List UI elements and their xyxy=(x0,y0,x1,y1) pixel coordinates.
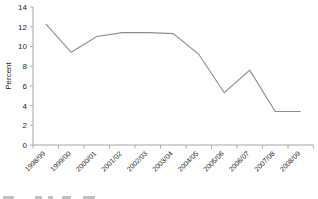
chart-container: 02468101214 1998/991999/002000/012001/02… xyxy=(0,0,318,199)
x-axis-tick-label: 2003/04 xyxy=(151,150,174,173)
footnote-ink-segment xyxy=(35,196,42,199)
y-axis-tick-label: 10 xyxy=(18,42,27,51)
x-axis-tick-label: 2004/05 xyxy=(177,150,200,173)
x-axis-tick-label: 2007/08 xyxy=(253,150,276,173)
line-chart: 02468101214 1998/991999/002000/012001/02… xyxy=(0,0,318,199)
footnote-ink-segment xyxy=(83,196,95,199)
y-axis-tick-label: 0 xyxy=(23,141,28,150)
y-axis-title: Percent xyxy=(4,61,13,89)
footnote-ink-segment xyxy=(3,196,14,199)
clipped-footnote xyxy=(0,196,318,199)
x-axis-tick-label: 1999/00 xyxy=(49,150,72,173)
series-line-percent xyxy=(46,24,301,112)
y-axis-tick-label: 8 xyxy=(23,62,28,71)
footnote-ink-segment xyxy=(62,196,71,199)
y-axis-tick-label: 6 xyxy=(23,82,28,91)
x-axis-tick-label: 1998/99 xyxy=(24,150,47,173)
x-axis-tick-label: 2005/06 xyxy=(202,150,225,173)
y-axis-tick-label: 4 xyxy=(23,102,28,111)
x-axis-tick-label: 2006/07 xyxy=(228,150,251,173)
y-axis: 02468101214 xyxy=(18,3,33,150)
y-axis-tick-label: 12 xyxy=(18,23,27,32)
x-axis-tick-label: 2000/01 xyxy=(75,150,98,173)
y-axis-tick-label: 14 xyxy=(18,3,27,12)
series-group xyxy=(46,24,301,112)
x-axis-tick-label: 2002/03 xyxy=(126,150,149,173)
y-axis-tick-label: 2 xyxy=(23,121,28,130)
x-axis-tick-label: 2001/02 xyxy=(100,150,123,173)
y-axis-title-group: Percent xyxy=(4,61,13,89)
footnote-ink-segment xyxy=(48,196,53,199)
x-axis: 1998/991999/002000/012001/022002/032003/… xyxy=(24,145,314,173)
x-axis-tick-label: 2008/09 xyxy=(279,150,302,173)
